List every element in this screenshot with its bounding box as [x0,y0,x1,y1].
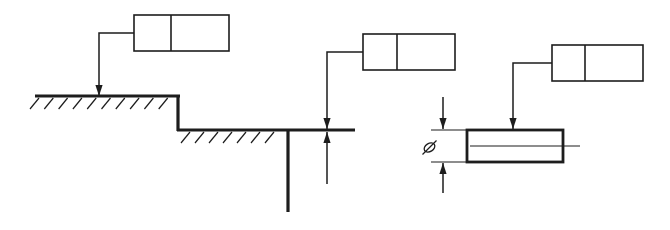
step-dimension-arrow-up [323,132,330,184]
hatch-mark [251,132,260,143]
hatch-mark [144,98,153,109]
technical-drawing [0,0,670,230]
hatch-upper-surface [30,98,168,109]
hatch-mark [30,98,39,109]
arrowhead-down-icon [95,85,102,96]
leader-line [327,52,363,129]
hatch-mark [116,98,125,109]
leader-line [513,63,552,129]
hatch-mark [237,132,246,143]
leader-to-extension-line [323,52,363,129]
hatch-mark [102,98,111,109]
hatch-mark [73,98,82,109]
feature-control-frame-3 [552,45,643,81]
pin-feature [467,130,580,162]
arrowhead-down-icon [323,118,330,129]
feature-control-frame-1 [134,15,229,51]
leader-to-upper-surface [95,33,134,96]
arrowhead-up-icon [323,132,330,143]
hatch-mark [87,98,96,109]
arrowhead-down-icon [439,118,446,129]
hatch-mark [44,98,53,109]
frame-border [552,45,643,81]
hatch-mark [159,98,168,109]
arrowhead-down-icon [509,118,516,129]
hatch-mark [181,132,190,143]
hatch-mark [195,132,204,143]
feature-control-frame-2 [363,34,455,70]
leader-to-pin-surface [509,63,552,129]
diameter-dimension-arrow-up [439,163,446,193]
diameter-symbol [422,141,436,155]
stepped-part-outline [35,95,355,212]
diameter-dimension-arrow-down [439,97,446,129]
hatch-mark [223,132,232,143]
leader-line [99,33,134,96]
arrowhead-up-icon [439,163,446,174]
hatch-mark [265,132,274,143]
drawing-svg [0,0,670,230]
frame-border [134,15,229,51]
frame-border [363,34,455,70]
hatch-mark [209,132,218,143]
hatch-lower-surface [181,132,274,143]
diameter-extension-lines [431,130,468,162]
hatch-mark [59,98,68,109]
hatch-mark [130,98,139,109]
